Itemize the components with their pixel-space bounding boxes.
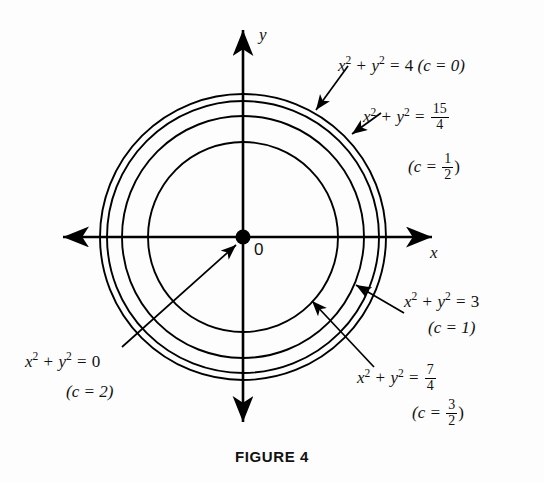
label-circle-c15: x2 + y2 = 7 4 xyxy=(357,363,437,393)
label-c1-constant: (c = 1) xyxy=(428,318,475,337)
label-c15-x: x xyxy=(357,368,365,387)
label-c05-c-fraction: 1 2 xyxy=(442,152,453,182)
label-c05-equals: = xyxy=(414,107,426,126)
figure-caption: FIGURE 4 xyxy=(0,448,544,465)
label-c15-denominator: 4 xyxy=(425,379,436,394)
origin-point xyxy=(236,230,251,245)
label-c15-fraction: 7 4 xyxy=(425,363,436,393)
label-c2-equals: = xyxy=(76,352,88,371)
label-c1-x: x xyxy=(404,292,412,311)
label-c05-c-open: (c = xyxy=(408,157,437,176)
label-c1-y: y xyxy=(437,292,445,311)
label-c15-c-numerator: 3 xyxy=(446,398,457,414)
label-c2-constant: (c = 2) xyxy=(66,382,113,401)
x-axis-label: x xyxy=(430,243,438,263)
label-circle-c2: x2 + y2 = 0 xyxy=(25,352,100,372)
figure-container: y x 0 x2 + y2 = 4 (c = 0) x2 + y2 = 15 4… xyxy=(0,0,544,483)
label-c15-numerator: 7 xyxy=(425,363,436,379)
label-c2-x: x xyxy=(25,352,33,371)
label-circle-c05: x2 + y2 = 15 4 xyxy=(363,102,450,132)
label-c2-plus: + xyxy=(43,352,55,371)
label-c05-c-close: ) xyxy=(454,157,460,176)
label-c2-value: 0 xyxy=(92,352,101,371)
origin-label: 0 xyxy=(254,240,263,260)
label-c15-c-fraction: 3 2 xyxy=(446,398,457,428)
label-c0-plus: + xyxy=(356,56,368,75)
label-c05-numerator: 15 xyxy=(431,102,449,118)
label-constant-c1: (c = 1) xyxy=(428,318,475,338)
label-c05-fraction: 15 4 xyxy=(431,102,449,132)
label-constant-c15: (c = 3 2 ) xyxy=(412,398,464,428)
label-c05-x: x xyxy=(363,107,371,126)
label-circle-c1: x2 + y2 = 3 xyxy=(404,292,479,312)
label-c0-equals: = xyxy=(389,56,401,75)
label-c15-y: y xyxy=(390,368,398,387)
label-c1-value: 3 xyxy=(471,292,480,311)
label-c1-plus: + xyxy=(422,292,434,311)
label-c15-c-open: (c = xyxy=(412,403,441,422)
y-axis-label: y xyxy=(259,25,267,45)
label-c2-y: y xyxy=(58,352,66,371)
label-c05-plus: + xyxy=(381,107,393,126)
label-c15-c-close: ) xyxy=(458,403,464,422)
label-constant-c05: (c = 1 2 ) xyxy=(408,152,460,182)
label-c05-c-denominator: 2 xyxy=(442,168,453,183)
label-c15-c-denominator: 2 xyxy=(446,414,457,429)
label-c1-equals: = xyxy=(455,292,467,311)
label-c0-y: y xyxy=(371,56,379,75)
label-c15-plus: + xyxy=(375,368,387,387)
label-c0-x: x xyxy=(338,56,346,75)
label-c05-denominator: 4 xyxy=(431,118,449,133)
label-c05-y: y xyxy=(396,107,404,126)
label-constant-c2: (c = 2) xyxy=(66,382,113,402)
label-circle-c0: x2 + y2 = 4 (c = 0) xyxy=(338,56,465,76)
label-c05-c-numerator: 1 xyxy=(442,152,453,168)
label-c15-equals: = xyxy=(408,368,420,387)
label-c0-value: 4 xyxy=(405,56,414,75)
label-c0-constant: (c = 0) xyxy=(418,56,465,75)
pointer-to-origin xyxy=(122,245,236,347)
